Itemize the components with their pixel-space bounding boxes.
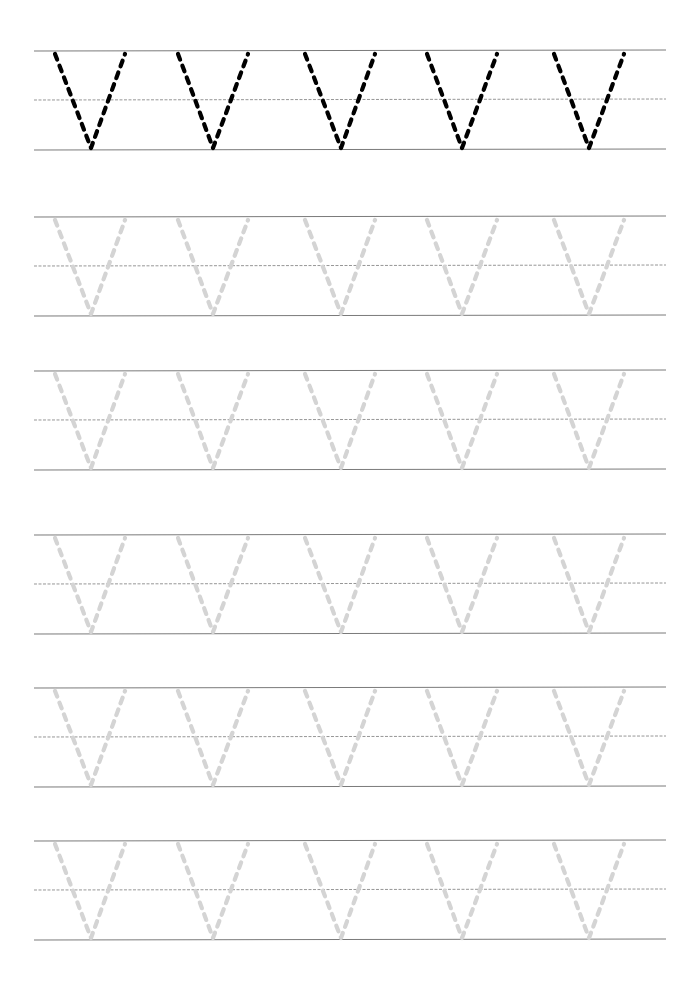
trace-letter-v-3 — [305, 220, 375, 314]
top-guide-line — [34, 840, 666, 841]
top-guide-line — [34, 216, 666, 217]
bottom-guide-line — [34, 939, 666, 940]
bottom-guide-line — [34, 786, 666, 787]
trace-letter-v-4 — [427, 374, 497, 468]
practice-row-3 — [34, 370, 666, 470]
model-letter-v-4 — [427, 54, 497, 148]
trace-letter-v-3 — [305, 374, 375, 468]
practice-row-5 — [34, 687, 666, 787]
trace-letter-v-3 — [305, 691, 375, 785]
model-letter-v-3 — [305, 54, 375, 148]
trace-letter-v-3 — [305, 844, 375, 938]
model-letter-v-2 — [178, 54, 248, 148]
trace-letter-v-5 — [554, 538, 624, 632]
model-letter-v-5 — [554, 54, 624, 148]
trace-letter-v-5 — [554, 691, 624, 785]
practice-row-2 — [34, 216, 666, 316]
trace-letter-v-2 — [178, 374, 248, 468]
trace-letter-v-2 — [178, 220, 248, 314]
top-guide-line — [34, 370, 666, 371]
bottom-guide-line — [34, 633, 666, 634]
top-guide-line — [34, 534, 666, 535]
trace-letter-v-4 — [427, 220, 497, 314]
bottom-guide-line — [34, 315, 666, 316]
practice-row-4 — [34, 534, 666, 634]
practice-row-1 — [34, 50, 666, 150]
top-guide-line — [34, 687, 666, 688]
handwriting-worksheet — [0, 0, 699, 988]
bottom-guide-line — [34, 469, 666, 470]
trace-letter-v-2 — [178, 691, 248, 785]
bottom-guide-line — [34, 149, 666, 150]
trace-letter-v-5 — [554, 844, 624, 938]
trace-letter-v-3 — [305, 538, 375, 632]
trace-letter-v-2 — [178, 844, 248, 938]
trace-letter-v-1 — [55, 220, 125, 314]
trace-letter-v-4 — [427, 844, 497, 938]
trace-letter-v-5 — [554, 220, 624, 314]
trace-letter-v-5 — [554, 374, 624, 468]
practice-row-6 — [34, 840, 666, 940]
trace-letter-v-4 — [427, 691, 497, 785]
model-letter-v-1 — [55, 54, 125, 148]
trace-letter-v-1 — [55, 374, 125, 468]
trace-letter-v-1 — [55, 844, 125, 938]
trace-letter-v-1 — [55, 691, 125, 785]
trace-letter-v-2 — [178, 538, 248, 632]
trace-letter-v-1 — [55, 538, 125, 632]
trace-letter-v-4 — [427, 538, 497, 632]
top-guide-line — [34, 50, 666, 51]
